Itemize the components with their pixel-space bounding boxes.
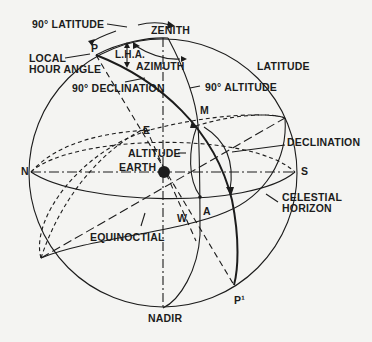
celestial-sphere-diagram: 90° LATITUDE ZENITH P L.H.A. LOCAL HOUR …: [0, 0, 372, 342]
label-w: W: [177, 213, 187, 224]
latitude-90-arrow-left: [92, 31, 116, 42]
label-equinoctial: EQUINOCTIAL: [90, 232, 165, 243]
label-a: A: [203, 206, 211, 217]
label-azimuth: AZIMUTH: [136, 61, 185, 72]
label-declination: DECLINATION: [287, 137, 360, 148]
celestial-horizon-leader: [266, 194, 278, 202]
label-p-prime: P¹: [234, 295, 245, 306]
local-hour-angle-leader: [65, 54, 90, 58]
label-altitude-90: 90° ALTITUDE: [205, 82, 277, 93]
label-latitude: LATITUDE: [257, 61, 310, 72]
label-altitude: ALTITUDE: [128, 148, 181, 159]
label-earth: EARTH: [119, 162, 156, 173]
label-declination-90: 90° DECLINATION: [72, 83, 165, 94]
label-latitude-90: 90° LATITUDE: [32, 19, 104, 30]
point-a: [198, 195, 202, 199]
label-hour-angle: HOUR ANGLE: [29, 64, 101, 75]
label-m: M: [200, 105, 209, 116]
latitude-90-leader: [107, 24, 127, 27]
equinoctial-leader: [141, 213, 145, 226]
label-horizon: HORIZON: [282, 203, 332, 214]
label-e: E: [143, 125, 150, 136]
declination-circle: [196, 115, 285, 126]
label-n: N: [21, 166, 29, 177]
label-lha: L.H.A.: [115, 49, 145, 60]
lha-arrowhead-bottom: [124, 62, 130, 68]
label-zenith: ZENITH: [151, 25, 190, 36]
label-p: P: [91, 43, 98, 54]
label-s: S: [301, 166, 308, 177]
declination-leader: [232, 145, 285, 152]
earth-dot: [158, 166, 170, 178]
east-west-line: [146, 128, 196, 241]
label-nadir: NADIR: [148, 313, 182, 324]
altitude-90-leader: [190, 86, 200, 88]
